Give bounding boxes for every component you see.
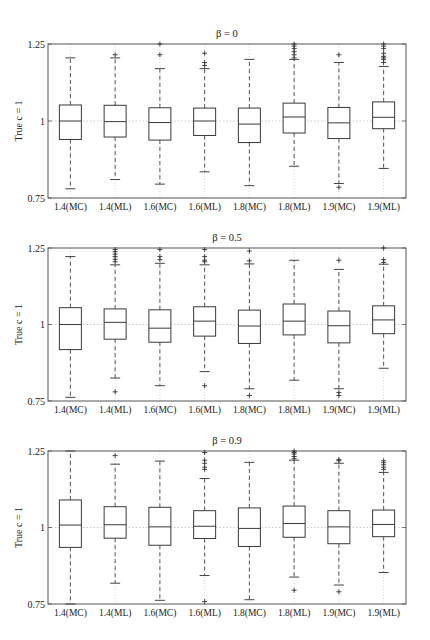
iqr-box — [194, 511, 216, 539]
iqr-box — [283, 103, 305, 133]
boxplot-panel-2: 0.7511.25β = 0.5True c = 11.4(MC)1.4(ML)… — [13, 232, 406, 416]
x-tick-label: 1.4(ML) — [99, 608, 131, 619]
y-tick-label: 1.25 — [28, 39, 46, 50]
figure-svg: 0.7511.25β = 0True c = 11.4(MC)1.4(ML)1.… — [0, 0, 430, 640]
box-1.8(ML) — [283, 42, 305, 167]
outlier-marker — [336, 393, 341, 398]
x-tick-label: 1.9(MC) — [322, 202, 355, 213]
iqr-box — [104, 507, 126, 539]
outlier-marker — [381, 257, 386, 262]
y-tick-label: 1 — [40, 116, 45, 127]
box-1.9(MC) — [328, 457, 350, 594]
outlier-marker — [247, 258, 252, 263]
outlier-marker — [336, 185, 341, 190]
iqr-box — [59, 105, 81, 139]
x-tick-label: 1.9(ML) — [367, 202, 399, 213]
iqr-box — [373, 102, 395, 129]
y-axis-label: True c = 1 — [13, 304, 24, 345]
box-1.8(MC) — [238, 462, 260, 599]
outlier-marker — [336, 589, 341, 594]
outlier-marker — [336, 52, 341, 57]
x-tick-label: 1.9(MC) — [322, 405, 355, 416]
panel-title: β = 0.9 — [212, 435, 242, 446]
outlier-marker — [336, 258, 341, 263]
y-tick-label: 1 — [40, 319, 45, 330]
y-tick-label: 1.25 — [28, 446, 46, 457]
iqr-box — [149, 507, 171, 545]
box-1.8(MC) — [238, 59, 260, 185]
iqr-box — [238, 508, 260, 547]
x-tick-label: 1.8(MC) — [233, 202, 266, 213]
iqr-box — [59, 500, 81, 547]
outlier-marker — [202, 51, 207, 56]
iqr-box — [149, 310, 171, 342]
boxplot-panel-1: 0.7511.25β = 0True c = 11.4(MC)1.4(ML)1.… — [13, 28, 406, 213]
box-1.6(MC) — [149, 247, 171, 386]
y-axis-label: True c = 1 — [13, 507, 24, 548]
x-tick-label: 1.6(MC) — [143, 405, 176, 416]
y-axis-label: True c = 1 — [13, 100, 24, 141]
outlier-marker — [157, 42, 162, 47]
box-1.6(ML) — [194, 247, 216, 388]
x-tick-label: 1.4(ML) — [99, 202, 131, 213]
iqr-box — [238, 310, 260, 343]
outlier-marker — [381, 246, 386, 251]
boxplot-panel-3: 0.7511.25β = 0.9True c = 11.4(MC)1.4(ML)… — [13, 435, 406, 619]
outlier-marker — [381, 51, 386, 56]
x-tick-label: 1.8(MC) — [233, 608, 266, 619]
outlier-marker — [113, 453, 118, 458]
iqr-box — [238, 108, 260, 142]
iqr-box — [373, 510, 395, 537]
iqr-box — [104, 309, 126, 339]
x-tick-label: 1.6(ML) — [188, 405, 220, 416]
x-tick-label: 1.8(ML) — [278, 202, 310, 213]
y-tick-label: 0.75 — [28, 396, 46, 407]
outlier-marker — [336, 457, 341, 462]
x-tick-label: 1.8(ML) — [278, 608, 310, 619]
x-tick-label: 1.6(MC) — [143, 608, 176, 619]
box-1.9(MC) — [328, 52, 350, 189]
x-tick-label: 1.8(ML) — [278, 405, 310, 416]
box-1.6(ML) — [194, 51, 216, 172]
outlier-marker — [157, 254, 162, 259]
panel-title: β = 0.5 — [212, 232, 242, 243]
outlier-marker — [247, 393, 252, 398]
panel-title: β = 0 — [216, 28, 238, 39]
iqr-box — [149, 108, 171, 140]
x-tick-label: 1.4(MC) — [54, 202, 87, 213]
box-1.9(ML) — [373, 246, 395, 369]
outlier-marker — [113, 52, 118, 57]
x-tick-label: 1.9(ML) — [367, 405, 399, 416]
x-tick-label: 1.4(MC) — [54, 405, 87, 416]
y-tick-label: 0.75 — [28, 599, 46, 610]
iqr-box — [283, 304, 305, 335]
x-tick-label: 1.4(MC) — [54, 608, 87, 619]
iqr-box — [283, 506, 305, 537]
y-tick-label: 0.75 — [28, 193, 46, 204]
box-1.8(MC) — [238, 249, 260, 398]
outlier-marker — [202, 254, 207, 259]
outlier-marker — [157, 52, 162, 57]
outlier-marker — [292, 588, 297, 593]
outlier-marker — [202, 599, 207, 604]
x-tick-label: 1.6(MC) — [143, 202, 176, 213]
outlier-marker — [202, 60, 207, 65]
iqr-box — [328, 311, 350, 343]
iqr-box — [59, 308, 81, 350]
x-tick-label: 1.4(ML) — [99, 405, 131, 416]
y-tick-label: 1 — [40, 522, 45, 533]
outlier-marker — [113, 389, 118, 394]
x-tick-label: 1.9(ML) — [367, 608, 399, 619]
x-tick-label: 1.8(MC) — [233, 405, 266, 416]
y-tick-label: 1.25 — [28, 243, 46, 254]
x-tick-label: 1.9(MC) — [322, 608, 355, 619]
outlier-marker — [202, 383, 207, 388]
outlier-marker — [247, 249, 252, 254]
iqr-box — [194, 108, 216, 135]
box-1.4(MC) — [59, 257, 81, 398]
outlier-marker — [202, 458, 207, 463]
box-1.4(MC) — [59, 451, 81, 604]
x-tick-label: 1.6(ML) — [188, 202, 220, 213]
x-tick-label: 1.6(ML) — [188, 608, 220, 619]
boxplot-figure: 0.7511.25β = 0True c = 11.4(MC)1.4(ML)1.… — [0, 0, 430, 640]
